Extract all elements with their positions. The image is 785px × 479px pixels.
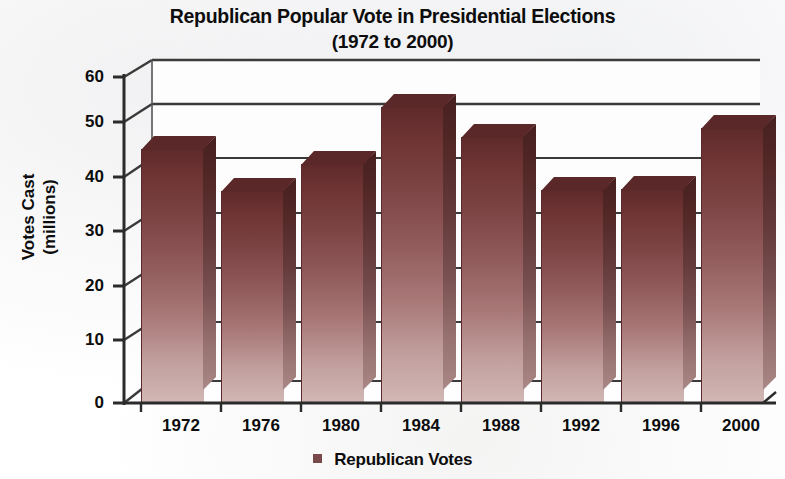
y-tick-60: 60: [58, 68, 104, 85]
bar-side-1996: [683, 176, 696, 390]
x-tick-1988: 1988: [463, 417, 539, 435]
bar-2000: [701, 128, 764, 404]
x-tick-1996: 1996: [623, 417, 699, 435]
x-tick-1976: 1976: [223, 417, 299, 435]
bar-side-1980: [363, 151, 376, 390]
bar-side-1976: [283, 178, 296, 390]
legend-swatch-icon: [313, 454, 322, 463]
plot-area: 60 50 40 30 20 10 0 1972 1976 1980 1984 …: [0, 0, 785, 479]
bar-top-1996: [621, 176, 696, 190]
x-tick-2000: 2000: [703, 417, 779, 435]
bar-side-2000: [763, 115, 776, 390]
y-tick-40: 40: [58, 168, 104, 185]
bar-1988: [461, 137, 524, 404]
x-tick-1980: 1980: [303, 417, 379, 435]
bar-top-1972: [141, 136, 216, 150]
x-tick-1972: 1972: [143, 417, 219, 435]
x-tick-1984: 1984: [383, 417, 459, 435]
y-tick-0: 0: [58, 394, 104, 411]
bar-top-1992: [541, 177, 616, 191]
chart-legend: Republican Votes: [0, 450, 785, 470]
bar-chart: Republican Popular Vote in Presidential …: [0, 0, 785, 479]
bar-side-1984: [443, 94, 456, 390]
bar-side-1988: [523, 124, 536, 390]
legend-label-republican-votes: Republican Votes: [334, 450, 472, 470]
y-tick-30: 30: [58, 222, 104, 239]
y-tick-10: 10: [58, 331, 104, 348]
bar-top-1988: [461, 124, 536, 138]
y-tick-20: 20: [58, 277, 104, 294]
bar-side-1972: [203, 136, 216, 390]
bar-1972: [141, 149, 204, 404]
bar-top-1984: [381, 94, 456, 108]
x-tick-1992: 1992: [543, 417, 619, 435]
bar-top-1980: [301, 151, 376, 165]
bar-1976: [221, 191, 284, 404]
bar-side-1992: [603, 177, 616, 390]
bar-1980: [301, 164, 364, 404]
bar-1996: [621, 189, 684, 404]
bar-1984: [381, 107, 444, 404]
y-tick-50: 50: [58, 113, 104, 130]
bar-top-2000: [701, 115, 776, 129]
bar-top-1976: [221, 178, 296, 192]
bar-1992: [541, 190, 604, 404]
